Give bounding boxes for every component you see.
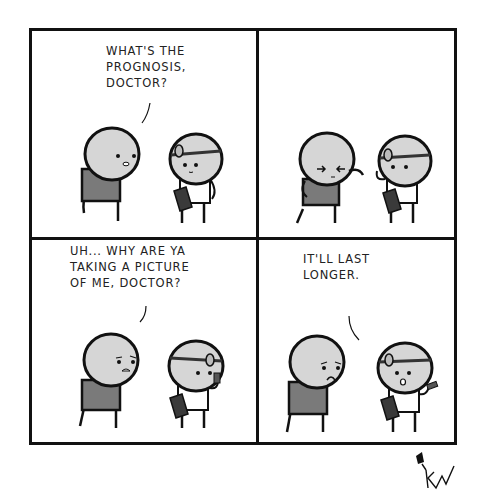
patient-figure <box>297 133 363 223</box>
panel-1-scene <box>32 31 254 235</box>
doctor-figure <box>378 343 438 432</box>
panel-1: WHAT'S THE PROGNOSIS, DOCTOR? <box>32 31 254 235</box>
doctor-figure <box>170 134 222 223</box>
panel-4-scene <box>259 240 481 444</box>
speech-tail <box>140 306 146 322</box>
speech-tail <box>142 103 150 123</box>
doctor-figure <box>377 136 431 223</box>
patient-figure <box>82 128 139 221</box>
doctor-figure <box>169 341 223 428</box>
patient-figure <box>80 334 138 428</box>
artist-signature <box>412 448 460 498</box>
phone-icon <box>214 373 220 383</box>
speech-tail <box>349 316 359 340</box>
comic-strip: WHAT'S THE PROGNOSIS, DOCTOR? <box>29 28 457 445</box>
panel-2 <box>259 31 481 235</box>
patient-figure <box>287 336 344 432</box>
panel-3: UH... WHY ARE YA TAKING A PICTURE OF ME,… <box>32 240 254 444</box>
panel-4: IT'LL LAST LONGER. <box>259 240 481 444</box>
panel-3-scene <box>32 240 254 444</box>
panel-2-scene <box>259 31 481 235</box>
